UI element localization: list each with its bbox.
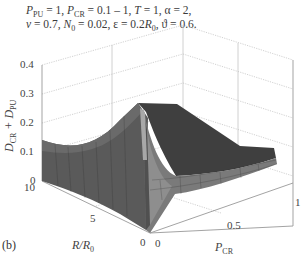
z-tick: 0.3: [20, 87, 34, 99]
panel-label: (b): [2, 238, 16, 253]
z-tick: 0.2: [20, 116, 34, 128]
z-tick: 0.4: [20, 58, 34, 70]
r-tick: 0: [140, 236, 146, 248]
r-tick: 5: [90, 212, 96, 224]
pcr-tick: 0: [155, 237, 161, 249]
z-tick: 0.1: [20, 145, 34, 157]
surface-mesh: [42, 103, 277, 233]
surface-plot: [0, 0, 304, 261]
r-tick: 10: [24, 181, 35, 193]
pcr-axis-label: PCR: [215, 240, 233, 256]
pcr-tick: 0.5: [227, 219, 241, 231]
pcr-tick: 1: [295, 196, 301, 208]
r-axis-label: R/R0: [72, 238, 94, 254]
z-axis-label: DCR + DPU: [2, 100, 18, 152]
